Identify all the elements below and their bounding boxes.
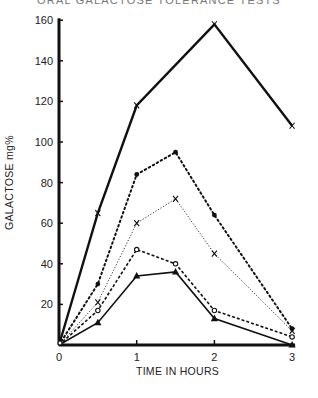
filled-circle-marker (290, 326, 295, 331)
x-tick-label: 0 (56, 351, 62, 363)
y-axis-label: GALACTOSE mg% (3, 135, 15, 230)
open-circle-marker (212, 308, 216, 312)
y-tick-label: 60 (41, 217, 53, 229)
x-marker (134, 220, 139, 226)
open-circle-marker (173, 262, 177, 266)
y-tick-label: 160 (35, 14, 53, 26)
x-tick-label: 2 (211, 351, 217, 363)
line-chart: 204060801001201401600123TIME IN HOURSGAL… (0, 0, 318, 398)
filled-circle-marker (173, 150, 178, 155)
filled-circle-marker (212, 213, 217, 218)
open-circle-marker (135, 247, 139, 251)
y-tick-label: 20 (41, 298, 53, 310)
y-tick-label: 140 (35, 55, 53, 67)
x-marker (95, 299, 100, 305)
x-marker (212, 21, 217, 27)
series-line (59, 272, 292, 345)
x-marker (290, 123, 295, 129)
open-circle-marker (290, 335, 294, 339)
x-marker (212, 251, 217, 257)
filled-circle-marker (95, 282, 100, 287)
y-tick-label: 100 (35, 136, 53, 148)
y-tick-label: 40 (41, 258, 53, 270)
origin-marker (58, 341, 62, 345)
series-line (59, 24, 292, 345)
x-marker (173, 196, 178, 202)
x-axis-label: TIME IN HOURS (136, 365, 219, 377)
open-circle-marker (96, 308, 100, 312)
filled-triangle-marker (172, 268, 179, 275)
y-tick-label: 120 (35, 95, 53, 107)
series-line (59, 152, 292, 345)
x-tick-label: 3 (289, 351, 295, 363)
y-tick-label: 80 (41, 177, 53, 189)
filled-circle-marker (134, 172, 139, 177)
x-tick-label: 1 (134, 351, 140, 363)
